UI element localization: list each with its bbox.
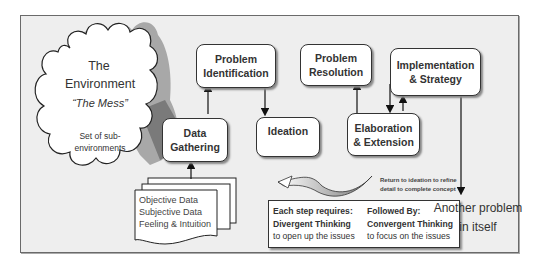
environment-description-line2: environments — [60, 142, 140, 154]
step-data-gathering: DataGathering — [162, 118, 228, 162]
environment-title: The Environment — [65, 57, 133, 93]
divergent-column: Each step requires: Divergent Thinking t… — [273, 205, 355, 243]
document-item: Subjective Data — [139, 206, 211, 218]
divergent-description: to open up the issues — [273, 230, 355, 243]
outcome-line2: in itself — [418, 218, 538, 237]
outcome-line1: Another problem — [418, 199, 538, 218]
step-problem-resolution: ProblemResolution — [300, 44, 372, 86]
environment-description: Set of sub- environments — [60, 130, 140, 154]
document-item: Objective Data — [139, 194, 211, 206]
step-label: Elaboration — [353, 121, 414, 135]
step-label: Identification — [203, 66, 268, 80]
step-label: Gathering — [170, 140, 220, 154]
step-ideation: Ideation — [256, 117, 320, 157]
step-label: Problem — [203, 52, 268, 66]
environment-title-line1: The — [65, 57, 133, 75]
return-note-line1: Return to ideation to refine — [380, 176, 457, 185]
divergent-heading: Each step requires: — [273, 205, 355, 218]
outcome-text: Another problem in itself — [418, 199, 538, 237]
step-label: & Strategy — [397, 72, 475, 86]
environment-title-line2: Environment — [65, 75, 133, 93]
step-label: Problem — [309, 51, 363, 65]
step-label: Ideation — [268, 124, 308, 138]
environment-description-line1: Set of sub- — [60, 130, 140, 142]
step-implementation-strategy: Implementation& Strategy — [390, 48, 481, 96]
return-note-line2: detail to complete concept — [380, 185, 457, 194]
step-label: & Extension — [353, 135, 414, 149]
environment-subtitle: “The Mess” — [60, 97, 140, 109]
documents-list: Objective Data Subjective Data Feeling &… — [139, 194, 211, 230]
step-elaboration-extension: Elaboration& Extension — [347, 113, 420, 156]
step-label: Resolution — [309, 65, 363, 79]
divergent-title: Divergent Thinking — [273, 218, 355, 231]
step-problem-identification: ProblemIdentification — [196, 44, 276, 88]
return-arrow-icon — [278, 176, 372, 196]
document-item: Feeling & Intuition — [139, 218, 211, 230]
return-note: Return to ideation to refine detail to c… — [380, 176, 457, 193]
step-label: Implementation — [397, 58, 475, 72]
step-label: Data — [170, 126, 220, 140]
